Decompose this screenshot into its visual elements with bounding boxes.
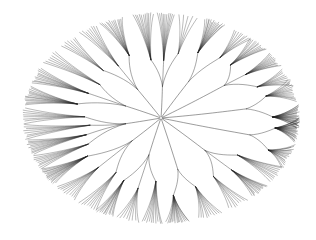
- dendrogram-canvas: Radial phylogenetic tree: [0, 0, 316, 240]
- radial-dendrogram-figure: Radial phylogenetic tree: [0, 0, 316, 240]
